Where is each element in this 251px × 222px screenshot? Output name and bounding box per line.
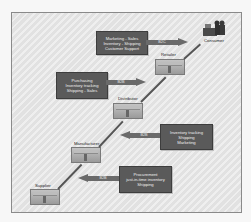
node-retailer xyxy=(155,59,185,75)
infobox-retailer-functions: Marketing - SalesInventory - ShippingCus… xyxy=(96,31,148,55)
infobox-line: Shipping - Sales xyxy=(65,88,98,93)
arrow-b2c: B2C xyxy=(146,38,188,47)
node-label-supplier: Supplier xyxy=(35,183,51,188)
infobox-line: Marketing - Sales xyxy=(103,36,140,41)
arrow-b2b-manufacturer: B2B xyxy=(120,131,160,140)
consumer-people-icon xyxy=(202,19,226,37)
node-supplier xyxy=(30,189,60,205)
arrow-label-b2c: B2C xyxy=(152,40,172,45)
arrow-b2b-supplier: B2B xyxy=(78,174,119,183)
node-label-consumer: Consumer xyxy=(204,38,224,43)
node-label-manufacturer: Manufacturer xyxy=(74,141,99,146)
arrow-label-b2b: B2B xyxy=(111,80,131,85)
node-distributor xyxy=(113,103,143,119)
infobox-line: Inventory - Shipping xyxy=(103,41,140,46)
infobox-line: Marketing xyxy=(170,140,203,145)
infobox-supplier-functions: Procurementjust-in-time inventoryShippin… xyxy=(119,166,172,193)
infobox-line: Inventory tracking xyxy=(170,130,203,135)
arrow-b2b-distributor: B2B xyxy=(106,78,146,87)
arrow-label-b2b: B2B xyxy=(93,176,113,181)
node-label-distributor: Distributor xyxy=(118,96,138,101)
node-label-retailer: Retailer xyxy=(161,52,176,57)
infobox-line: Customer Support xyxy=(103,46,140,51)
infobox-manufacturer-functions: Inventory trackingShippingMarketing xyxy=(160,124,213,150)
infobox-line: Shipping xyxy=(126,182,165,187)
infobox-distributor-functions: PurchasingInventory trackingShipping - S… xyxy=(56,72,108,99)
arrow-label-b2b: B2B xyxy=(134,133,154,138)
node-manufacturer xyxy=(71,147,101,163)
